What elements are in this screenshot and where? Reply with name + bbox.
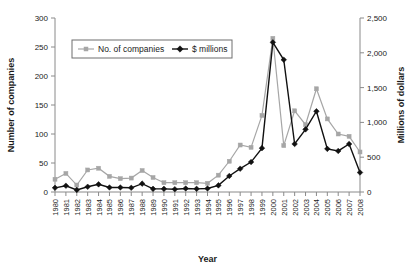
data-point-companies xyxy=(173,181,177,185)
series-layer xyxy=(52,36,363,192)
data-point-companies xyxy=(184,181,188,185)
x-axis-tick-label: 1993 xyxy=(193,199,202,216)
y-axis-left-tick-label: 0 xyxy=(44,188,49,197)
x-axis-tick-label: 1987 xyxy=(127,199,136,216)
data-point-millions xyxy=(85,184,91,190)
data-point-millions xyxy=(52,185,58,191)
data-point-millions xyxy=(139,181,145,187)
x-axis-tick-label: 1997 xyxy=(236,199,245,216)
data-point-millions xyxy=(183,186,189,192)
y-axis-right-tick-label: 0 xyxy=(367,188,372,197)
data-point-companies xyxy=(347,134,351,138)
x-axis-tick-label: 1980 xyxy=(51,199,60,216)
data-point-millions xyxy=(325,146,331,152)
x-axis-tick-label: 1984 xyxy=(95,199,104,216)
x-axis-tick-label: 1985 xyxy=(105,199,114,216)
data-point-companies xyxy=(64,171,68,175)
data-point-companies xyxy=(227,159,231,163)
x-axis-tick-label: 1988 xyxy=(138,199,147,216)
data-point-millions xyxy=(161,186,167,192)
y-axis-right-tick-label: 2,000 xyxy=(367,49,388,58)
x-axis-tick-label: 2006 xyxy=(334,199,343,216)
x-axis-tick-label: 2007 xyxy=(345,199,354,216)
y-axis-left-tick-label: 50 xyxy=(39,159,48,168)
data-point-millions xyxy=(128,185,134,191)
x-axis-title: Year xyxy=(198,254,218,264)
data-point-companies xyxy=(206,181,210,185)
chart-container: 05010015020025030005001,0001,5002,0002,5… xyxy=(0,0,414,271)
data-point-millions xyxy=(172,186,178,192)
data-point-companies xyxy=(118,177,122,181)
x-axis-tick-label: 2002 xyxy=(291,199,300,216)
data-point-companies xyxy=(282,144,286,148)
y-axis-right-tick-label: 500 xyxy=(367,153,381,162)
x-axis-tick-label: 2004 xyxy=(312,199,321,216)
y-axis-left-tick-label: 200 xyxy=(35,72,49,81)
legend-label-millions: $ millions xyxy=(192,44,227,54)
data-point-millions xyxy=(63,183,69,189)
x-axis-tick-label: 2001 xyxy=(280,199,289,216)
x-axis-tick-label: 1995 xyxy=(214,199,223,216)
x-axis-tick-label: 1981 xyxy=(62,199,71,216)
chart-svg: 05010015020025030005001,0001,5002,0002,5… xyxy=(0,0,414,271)
data-point-companies xyxy=(325,117,329,121)
data-point-companies xyxy=(129,176,133,180)
data-point-companies xyxy=(238,143,242,147)
y-axis-left-tick-label: 150 xyxy=(35,101,49,110)
data-point-millions xyxy=(194,186,200,192)
data-point-millions xyxy=(150,186,156,192)
axis-titles-layer: Number of companiesMillions of dollarsYe… xyxy=(6,58,406,264)
data-point-companies xyxy=(216,173,220,177)
data-point-companies xyxy=(140,169,144,173)
data-point-millions xyxy=(205,186,211,192)
y-axis-right-title: Millions of dollars xyxy=(396,67,406,144)
data-point-companies xyxy=(358,150,362,154)
data-point-companies xyxy=(53,177,57,181)
legend-label-companies: No. of companies xyxy=(98,44,164,54)
data-point-companies xyxy=(75,183,79,187)
data-point-millions xyxy=(357,170,363,176)
y-axis-left-tick-label: 100 xyxy=(35,130,49,139)
x-axis-tick-label: 1999 xyxy=(258,199,267,216)
x-axis-tick-label: 1990 xyxy=(160,199,169,216)
x-axis-tick-label: 2000 xyxy=(269,199,278,216)
data-point-companies xyxy=(314,87,318,91)
x-axis-tick-label: 1992 xyxy=(182,199,191,216)
legend-marker-companies xyxy=(84,47,88,51)
data-point-millions xyxy=(107,185,113,191)
x-axis-tick-label: 2005 xyxy=(323,199,332,216)
x-axis-tick-label: 1994 xyxy=(204,199,213,216)
x-axis-tick-label: 1998 xyxy=(247,199,256,216)
x-axis-tick-label: 1982 xyxy=(73,199,82,216)
y-axis-right-tick-label: 2,500 xyxy=(367,14,388,23)
x-axis-tick-label: 1989 xyxy=(149,199,158,216)
data-point-companies xyxy=(151,176,155,180)
legend-layer: No. of companies$ millions xyxy=(72,40,232,58)
data-point-millions xyxy=(118,185,124,191)
x-axis-tick-label: 1986 xyxy=(116,199,125,216)
x-axis-tick-label: 1991 xyxy=(171,199,180,216)
x-axis-tick-label: 1996 xyxy=(225,199,234,216)
y-axis-left-title: Number of companies xyxy=(6,58,16,153)
data-point-companies xyxy=(249,145,253,149)
data-point-companies xyxy=(336,132,340,136)
y-axis-right-tick-label: 1,000 xyxy=(367,118,388,127)
data-point-companies xyxy=(293,109,297,113)
data-point-companies xyxy=(162,181,166,185)
data-point-companies xyxy=(86,168,90,172)
data-point-millions xyxy=(96,182,102,188)
x-axis-tick-label: 1983 xyxy=(84,199,93,216)
y-axis-left-tick-label: 250 xyxy=(35,43,49,52)
x-axis-tick-label: 2008 xyxy=(356,199,365,216)
data-point-companies xyxy=(107,174,111,178)
data-point-companies xyxy=(260,113,264,117)
y-axis-left-tick-label: 300 xyxy=(35,14,49,23)
x-axis-tick-label: 2003 xyxy=(302,199,311,216)
data-point-companies xyxy=(97,166,101,170)
y-axis-right-tick-label: 1,500 xyxy=(367,84,388,93)
data-point-companies xyxy=(195,181,199,185)
